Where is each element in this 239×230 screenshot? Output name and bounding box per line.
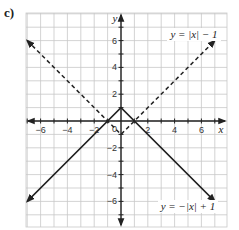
y-tick-label: 6 — [112, 36, 117, 46]
graph: −6−4−2246−6−4−22460xyy = |x| − 1y = −|x|… — [0, 0, 239, 230]
grid-border — [26, 13, 227, 227]
y-tick-label: −2 — [107, 143, 117, 153]
y-tick-label: −4 — [107, 170, 117, 180]
x-tick-label: 6 — [199, 125, 204, 135]
x-tick-label: −4 — [62, 125, 72, 135]
y-axis-label: y — [112, 12, 118, 24]
equation-label-bottom: y = −|x| + 1 — [160, 200, 216, 212]
y-tick-label: 2 — [112, 89, 117, 99]
equation-label-top: y = |x| − 1 — [169, 28, 217, 40]
y-tick-label: −6 — [107, 196, 117, 206]
x-axis-label: x — [218, 123, 224, 135]
y-tick-label: 4 — [112, 62, 117, 72]
x-tick-label: 4 — [172, 125, 177, 135]
x-tick-label: −6 — [35, 125, 45, 135]
